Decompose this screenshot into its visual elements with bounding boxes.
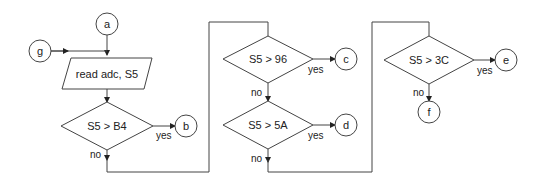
yes-label: yes bbox=[477, 65, 493, 76]
svg-text:g: g bbox=[37, 45, 43, 57]
no-label: no bbox=[251, 153, 263, 164]
decision-s5-gt-5a: S5 > 5A bbox=[223, 101, 313, 149]
svg-text:b: b bbox=[183, 120, 189, 132]
connector-d: d bbox=[335, 114, 357, 136]
no-label: no bbox=[251, 87, 263, 98]
connector-a: a bbox=[96, 13, 118, 35]
connector-f: f bbox=[418, 101, 440, 123]
svg-text:S5 > 5A: S5 > 5A bbox=[248, 119, 288, 131]
yes-label: yes bbox=[156, 130, 172, 141]
svg-text:S5 > 96: S5 > 96 bbox=[249, 53, 287, 65]
decision-s5-gt-3c: S5 > 3C bbox=[384, 36, 474, 84]
flow-line bbox=[268, 22, 429, 172]
svg-text:e: e bbox=[503, 54, 509, 66]
yes-label: yes bbox=[308, 64, 324, 75]
connector-c: c bbox=[335, 48, 357, 70]
flowchart-canvas: a g read adc, S5 S5 > B4 yes b no S5 > 9… bbox=[0, 0, 538, 181]
svg-text:S5 > B4: S5 > B4 bbox=[87, 120, 126, 132]
connector-g: g bbox=[29, 40, 51, 62]
decision-s5-gt-96: S5 > 96 bbox=[223, 36, 313, 83]
no-label: no bbox=[413, 87, 425, 98]
svg-text:S5 > 3C: S5 > 3C bbox=[409, 54, 449, 66]
svg-text:a: a bbox=[104, 18, 111, 30]
svg-text:d: d bbox=[343, 119, 349, 131]
decision-s5-gt-b4: S5 > B4 bbox=[61, 102, 153, 150]
connector-e: e bbox=[495, 49, 517, 71]
yes-label: yes bbox=[308, 130, 324, 141]
flow-line bbox=[107, 22, 268, 172]
svg-text:c: c bbox=[343, 53, 349, 65]
process-read-adc: read adc, S5 bbox=[62, 58, 152, 89]
svg-text:read adc, S5: read adc, S5 bbox=[76, 68, 138, 80]
no-label: no bbox=[90, 149, 102, 160]
connector-b: b bbox=[175, 115, 197, 137]
